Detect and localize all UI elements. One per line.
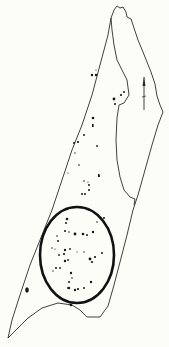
outer-boundary [8, 6, 163, 338]
feature-dots [25, 69, 125, 306]
site-plan-diagram [0, 0, 169, 347]
north-arrow-icon [142, 77, 146, 110]
site-plan-svg [0, 0, 169, 347]
inner-boundary [111, 18, 135, 205]
